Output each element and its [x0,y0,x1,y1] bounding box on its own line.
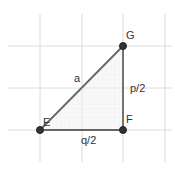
label-q-half: q/2 [81,134,96,146]
geometry-canvas: E F G a p/2 q/2 [0,0,175,169]
point-F[interactable] [120,127,127,134]
label-a: a [74,72,81,84]
label-F: F [126,113,133,125]
label-E: E [43,116,50,128]
label-p-half: p/2 [130,82,145,94]
point-G[interactable] [120,43,127,50]
label-G: G [126,29,135,41]
